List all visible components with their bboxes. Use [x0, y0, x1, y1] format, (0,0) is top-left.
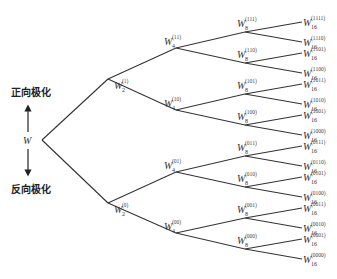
positive-polarization-label: 正向极化	[11, 86, 51, 98]
svg-text:16: 16	[311, 55, 317, 61]
tree-edge	[245, 94, 302, 104]
node-label-16-1111: W16(1111)	[303, 15, 325, 30]
node-label-4-10: W4(10)	[164, 96, 181, 111]
svg-text:(100): (100)	[245, 109, 257, 116]
svg-text:(1110): (1110)	[311, 35, 325, 42]
svg-text:(10): (10)	[172, 96, 181, 103]
svg-text:(0111): (0111)	[311, 139, 325, 146]
tree-edge	[245, 187, 302, 197]
svg-text:(101): (101)	[245, 78, 257, 85]
tree-edge	[176, 172, 245, 187]
svg-text:(1): (1)	[122, 78, 129, 85]
svg-text:(0100): (0100)	[311, 190, 326, 197]
root-label: W	[23, 135, 33, 146]
tree-edge	[245, 125, 302, 135]
svg-text:(1010): (1010)	[311, 97, 326, 104]
svg-text:8: 8	[245, 87, 248, 93]
svg-text:16: 16	[311, 148, 317, 154]
tree-edge	[245, 22, 302, 32]
node-label-16-0011: W16(0011)	[303, 201, 326, 216]
svg-text:(0): (0)	[122, 202, 129, 209]
tree-edge	[176, 218, 245, 233]
svg-text:4: 4	[172, 228, 175, 234]
tree-edge	[176, 233, 245, 249]
tree-edge	[42, 79, 108, 140]
tree-edge	[245, 177, 302, 187]
node-label-16-0001: W16(0001)	[303, 232, 326, 247]
tree-edge	[245, 156, 302, 166]
svg-text:16: 16	[311, 241, 317, 247]
svg-text:(011): (011)	[245, 140, 257, 147]
svg-text:4: 4	[172, 43, 175, 49]
node-label-16-0101: W16(0101)	[303, 170, 326, 185]
tree-edge	[245, 146, 302, 156]
svg-text:4: 4	[172, 105, 175, 111]
node-label-4-11: W4(11)	[164, 34, 181, 49]
svg-text:(001): (001)	[245, 202, 257, 209]
tree-node-labels: W2(1)W2(0)W4(11)W4(10)W4(01)W4(00)W8(111…	[114, 15, 326, 267]
negative-polarization-label: 反向极化	[11, 183, 51, 195]
svg-text:2: 2	[122, 87, 125, 93]
svg-text:(111): (111)	[245, 16, 257, 23]
node-label-2-0: W2(0)	[114, 202, 129, 217]
svg-text:(110): (110)	[245, 47, 257, 54]
node-label-16-1101: W16(1101)	[303, 46, 326, 61]
polarization-tree-diagram: 正向极化 W 反向极化 W2(1)W2(0)W4(11)W4(10)W4(01)…	[0, 0, 337, 279]
tree-edge	[245, 63, 302, 73]
tree-edge	[245, 53, 302, 63]
svg-text:(01): (01)	[172, 158, 181, 165]
node-label-8-011: W8(011)	[237, 140, 257, 155]
svg-text:8: 8	[245, 25, 248, 31]
svg-text:8: 8	[245, 180, 248, 186]
tree-edge	[245, 239, 302, 249]
svg-text:8: 8	[245, 56, 248, 62]
node-label-8-001: W8(001)	[237, 202, 257, 217]
svg-text:(0000): (0000)	[311, 252, 326, 259]
svg-text:(010): (010)	[245, 171, 257, 178]
svg-text:(1100): (1100)	[311, 66, 326, 73]
tree-edge	[176, 48, 245, 63]
svg-text:(0101): (0101)	[311, 170, 326, 177]
node-label-16-1001: W16(1001)	[303, 108, 326, 123]
svg-text:(1101): (1101)	[311, 46, 326, 53]
tree-edge	[108, 48, 176, 79]
svg-text:(000): (000)	[245, 233, 257, 240]
tree-edge	[42, 140, 108, 203]
svg-text:16: 16	[311, 117, 317, 123]
tree-edge	[245, 84, 302, 94]
svg-text:4: 4	[172, 167, 175, 173]
tree-edge	[176, 94, 245, 110]
svg-text:2: 2	[122, 211, 125, 217]
tree-edge	[176, 32, 245, 48]
node-label-8-101: W8(101)	[237, 78, 257, 93]
node-label-8-100: W8(100)	[237, 109, 257, 124]
node-label-8-000: W8(000)	[237, 233, 257, 248]
tree-edge	[245, 115, 302, 125]
node-label-8-110: W8(110)	[237, 47, 257, 62]
svg-text:(0110): (0110)	[311, 159, 326, 166]
svg-text:(11): (11)	[172, 34, 181, 41]
tree-edge	[176, 110, 245, 125]
node-label-4-01: W4(01)	[164, 158, 181, 173]
tree-edge	[245, 208, 302, 218]
svg-text:16: 16	[311, 86, 317, 92]
svg-text:16: 16	[311, 179, 317, 185]
svg-text:8: 8	[245, 118, 248, 124]
tree-edge	[176, 156, 245, 172]
tree-edge	[108, 172, 176, 203]
tree-edge	[245, 32, 302, 42]
node-label-16-0111: W16(0111)	[303, 139, 325, 154]
node-label-8-010: W8(010)	[237, 171, 257, 186]
svg-text:8: 8	[245, 242, 248, 248]
svg-text:16: 16	[311, 210, 317, 216]
svg-text:8: 8	[245, 149, 248, 155]
tree-edge	[245, 249, 302, 259]
svg-text:8: 8	[245, 211, 248, 217]
svg-text:(00): (00)	[172, 219, 181, 226]
svg-text:(0010): (0010)	[311, 221, 326, 228]
svg-text:(1000): (1000)	[311, 128, 326, 135]
svg-text:(1011): (1011)	[311, 77, 326, 84]
node-label-2-1: W2(1)	[114, 78, 129, 93]
svg-text:(1001): (1001)	[311, 108, 326, 115]
node-label-4-00: W4(00)	[164, 219, 181, 234]
